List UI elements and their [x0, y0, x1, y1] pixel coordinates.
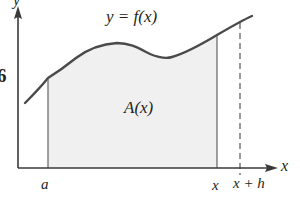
tick-label-a: a	[41, 177, 49, 192]
page-edge-fragment: 6	[0, 66, 7, 85]
curve-equation-label: y = f(x)	[106, 8, 157, 25]
y-axis-label: y	[13, 0, 20, 8]
tick-label-x-plus-h: x + h	[233, 176, 265, 191]
tick-label-x: x	[212, 178, 219, 193]
area-function-figure: 6 y x y = f(x) A(x) a x x + h	[0, 0, 300, 218]
x-axis-label: x	[281, 158, 288, 174]
area-function-label: A(x)	[124, 99, 153, 116]
